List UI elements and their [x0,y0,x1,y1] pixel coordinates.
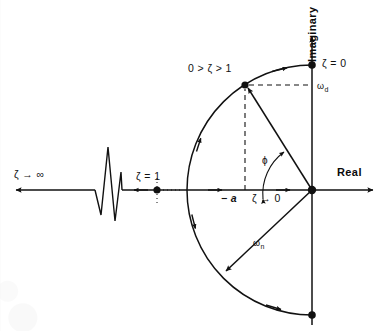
locus-arc-upper [187,65,312,190]
arc-direction-arrows [192,68,287,310]
zeta-to-infinity-label: ζ → ∞ [14,168,44,180]
locus-arc-lower [187,190,312,315]
axis-break-zigzag [95,147,122,221]
arc-arrow-upper-right [272,68,287,72]
imaginary-axis-label: Imaginary [306,6,318,62]
pole-dot-breakaway [153,186,160,193]
pole-dot-zeta-zero-conjugate [308,311,316,319]
underdamped-range-label: 0 > ζ > 1 [188,62,232,74]
omega-n-label: ωn [253,238,265,250]
zeta-equals-one-label: ζ = 1 [136,170,160,182]
zeta-to-zero-label: ζ → 0 [252,192,281,204]
omega-d-subscript: d [324,86,328,93]
vector-to-damped-pole [248,88,312,190]
real-axis-label: Real [337,166,362,178]
omega-n-subscript: n [260,243,264,250]
minus-a-label: − a [221,192,237,204]
phi-angle-label: ϕ [262,155,268,166]
omega-d-label: ωd [317,81,329,93]
zeta-equals-zero-label: ζ = 0 [322,57,346,69]
pole-dot-damped [241,81,248,88]
figure-canvas: Real Imaginary ζ → ∞ ζ = 1 ζ = 0 ζ → 0 0… [0,0,381,331]
root-locus-svg [0,0,381,331]
pole-dot-zeta-zero [308,61,316,69]
imaginary-axis-label-text: Imaginary [306,6,318,62]
real-axis-label-text: Real [337,166,362,178]
radius-vector-group [226,88,312,271]
pole-dot-origin [308,186,316,194]
construction-dashed-group [157,85,310,205]
